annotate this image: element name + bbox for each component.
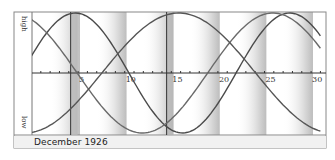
svg-text:20: 20 — [219, 75, 229, 84]
month-label: December 1926 — [34, 137, 108, 147]
svg-text:25: 25 — [266, 75, 276, 84]
svg-text:30: 30 — [312, 75, 322, 84]
y-label-low: low — [20, 116, 28, 128]
y-label-high: high — [20, 16, 28, 32]
svg-text:15: 15 — [172, 75, 182, 84]
biorhythm-chart: 51015202530 — [0, 0, 335, 160]
